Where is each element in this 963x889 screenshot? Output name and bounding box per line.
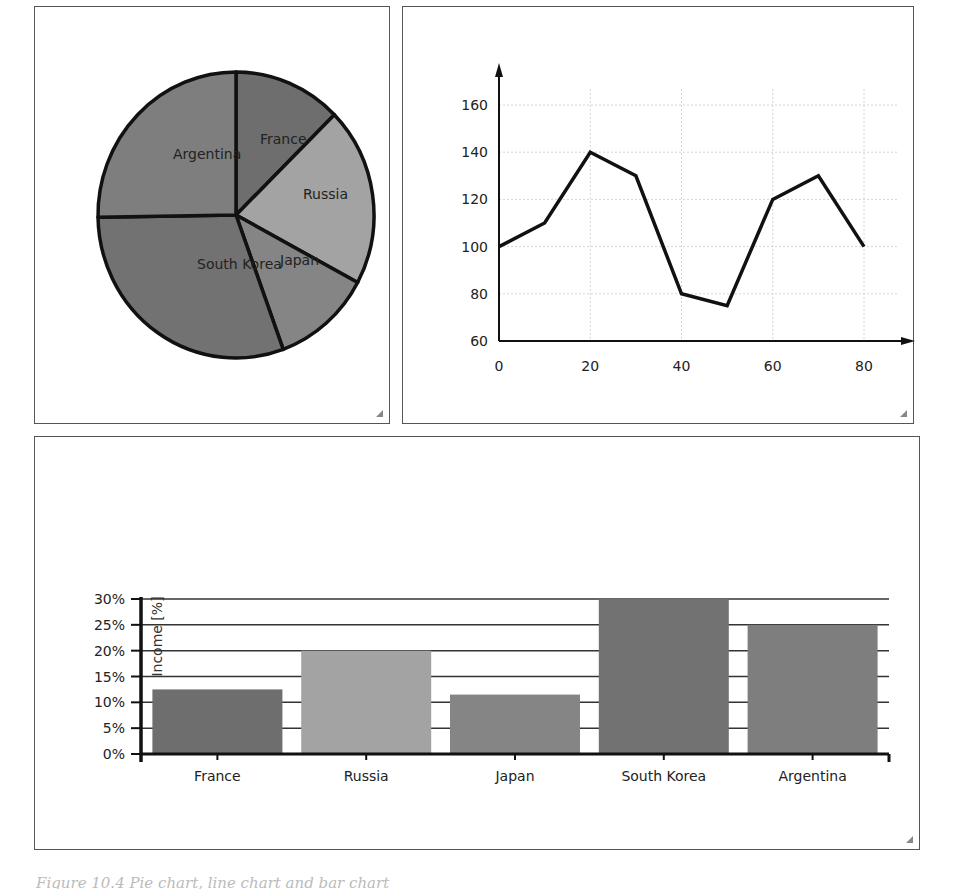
y-tick-label: 0%: [103, 746, 125, 762]
bar-argentina: [748, 625, 878, 754]
resize-handle-icon[interactable]: [376, 410, 383, 417]
figure-caption: Figure 10.4 Pie chart, line chart and ba…: [36, 874, 389, 889]
y-tick-label: 30%: [94, 591, 125, 607]
x-tick-label: Russia: [344, 768, 389, 784]
resize-handle-icon[interactable]: [906, 836, 913, 843]
bar-japan: [450, 695, 580, 754]
x-tick-label: 60: [764, 358, 782, 374]
y-tick-label: 15%: [94, 669, 125, 685]
y-tick-label: 120: [461, 191, 488, 207]
x-tick-label: Japan: [494, 768, 534, 784]
x-tick-label: 20: [581, 358, 599, 374]
y-tick-label: 160: [461, 97, 488, 113]
y-axis-arrow-icon: [495, 63, 503, 77]
pie-slice-argentina: [98, 72, 236, 217]
bar-south-korea: [599, 599, 729, 754]
y-tick-label: 20%: [94, 643, 125, 659]
line-chart-panel: 6080100120140160020406080: [402, 6, 914, 424]
x-tick-label: 0: [495, 358, 504, 374]
x-tick-label: South Korea: [621, 768, 706, 784]
y-tick-label: 140: [461, 144, 488, 160]
x-tick-label: Argentina: [778, 768, 846, 784]
y-tick-label: 5%: [103, 720, 125, 736]
y-tick-label: 25%: [94, 617, 125, 633]
pie-chart: FranceRussiaJapanSouth KoreaArgentina: [35, 7, 391, 425]
pie-label: Japan: [279, 252, 319, 268]
bar-chart-panel: 0%5%10%15%20%25%30%FranceRussiaJapanSout…: [34, 436, 920, 850]
pie-label: South Korea: [197, 256, 282, 272]
y-tick-label: 80: [470, 286, 488, 302]
y-axis-label: Income [%]: [149, 596, 165, 676]
pie-label: France: [260, 131, 307, 147]
line-chart: 6080100120140160020406080: [403, 7, 915, 425]
pie-chart-panel: FranceRussiaJapanSouth KoreaArgentina: [34, 6, 390, 424]
bar-russia: [301, 651, 431, 754]
y-tick-label: 60: [470, 333, 488, 349]
x-tick-label: 80: [855, 358, 873, 374]
resize-handle-icon[interactable]: [900, 410, 907, 417]
x-tick-label: France: [194, 768, 241, 784]
pie-label: Argentina: [173, 146, 241, 162]
y-tick-label: 100: [461, 239, 488, 255]
bar-chart: 0%5%10%15%20%25%30%FranceRussiaJapanSout…: [35, 437, 921, 851]
bar-france: [152, 689, 282, 754]
y-tick-label: 10%: [94, 694, 125, 710]
x-axis-arrow-icon: [901, 337, 915, 345]
x-tick-label: 40: [673, 358, 691, 374]
pie-label: Russia: [303, 186, 348, 202]
